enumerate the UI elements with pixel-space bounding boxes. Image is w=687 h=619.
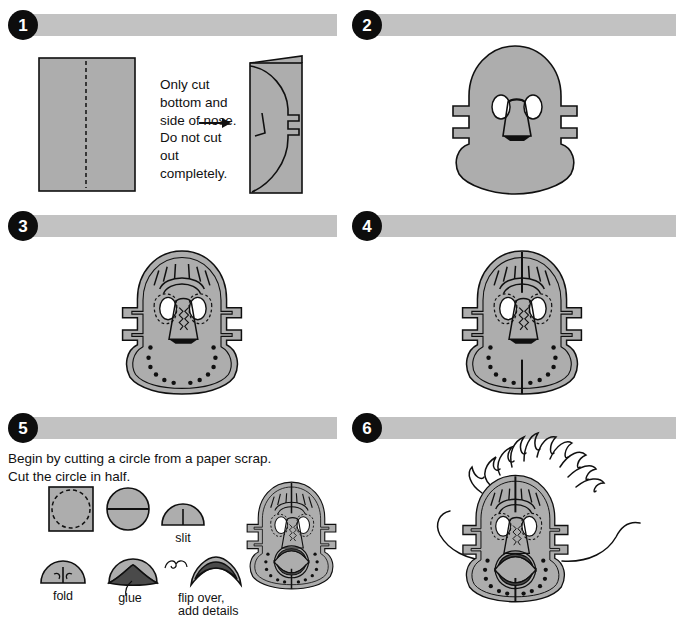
arrow-right-icon xyxy=(198,116,232,130)
border-dot xyxy=(148,345,152,349)
step-1-badge-label: 1 xyxy=(18,17,27,34)
paper-rectangle xyxy=(39,58,135,191)
flipped-mouth-shape xyxy=(191,557,241,585)
border-dot xyxy=(266,553,269,556)
step-5-label-slit: slit xyxy=(160,531,206,546)
step-4-panel: 4 xyxy=(344,205,687,405)
border-dot xyxy=(197,378,201,382)
border-dot xyxy=(511,381,515,385)
border-dot xyxy=(528,381,532,385)
border-dot xyxy=(551,365,555,369)
border-dot xyxy=(488,365,492,369)
step-5-badge-label: 5 xyxy=(18,420,27,437)
step-4-badge-label: 4 xyxy=(362,218,371,235)
border-dot xyxy=(494,372,498,376)
step-3-badge-label: 3 xyxy=(18,218,27,235)
hair-strand xyxy=(568,466,596,480)
border-dot xyxy=(538,584,542,588)
border-dot xyxy=(505,591,509,595)
forehead-ray-4 xyxy=(296,493,297,503)
forehead-ray-4 xyxy=(189,264,190,279)
border-dot xyxy=(146,356,150,360)
step-4-figure-mask-with-slits xyxy=(457,245,587,400)
step-4-header-bar xyxy=(356,215,676,237)
step-3-badge: 3 xyxy=(8,211,38,241)
hair-strand xyxy=(576,479,604,492)
border-dot xyxy=(148,365,152,369)
right-whisker xyxy=(562,523,640,562)
curl-arrow xyxy=(165,561,187,568)
border-dot xyxy=(211,365,215,369)
step-2-badge: 2 xyxy=(352,10,382,40)
border-dot xyxy=(537,378,541,382)
step-2-panel: 2 xyxy=(344,0,687,205)
border-dot xyxy=(311,574,314,577)
border-dot xyxy=(283,580,286,583)
step-5-figure-half-circle-fold xyxy=(38,557,88,587)
border-dot xyxy=(541,559,545,563)
border-dot xyxy=(521,591,525,595)
border-dot xyxy=(486,356,490,360)
border-dot xyxy=(530,589,534,593)
step-4-badge: 4 xyxy=(352,211,382,241)
step-5-figure-half-circle-flipped xyxy=(188,555,244,589)
forehead-ray-3 xyxy=(515,266,516,279)
border-dot xyxy=(211,345,215,349)
forehead-ray-3 xyxy=(175,264,176,279)
forehead-ray-3 xyxy=(509,489,510,500)
hair-strand xyxy=(469,467,484,493)
step-3-figure-decorated-mask xyxy=(117,245,247,400)
forehead-ray-4 xyxy=(529,266,530,279)
border-dot xyxy=(171,381,175,385)
border-dot xyxy=(315,568,318,571)
step-6-panel: 6 xyxy=(344,405,687,614)
step-5-figure-half-circle-slit xyxy=(160,500,206,528)
border-dot xyxy=(276,578,279,581)
border-dot xyxy=(315,560,318,563)
border-dot xyxy=(162,378,166,382)
border-dot xyxy=(497,589,501,593)
step-1-header-bar xyxy=(12,14,337,36)
step-1-figure-folded-paper xyxy=(38,57,136,192)
border-dot xyxy=(297,580,300,583)
step-6-figure-finished-mask xyxy=(354,427,674,614)
step-5-figure-half-circle-glue xyxy=(105,555,161,589)
step-5-badge: 5 xyxy=(8,413,38,443)
step-5-panel: 5 Begin by cutting a circle from a paper… xyxy=(0,405,344,614)
step-2-badge-label: 2 xyxy=(362,17,371,34)
hair-strand xyxy=(560,452,586,468)
step-1-figure-folded-half-with-outline xyxy=(243,55,309,195)
border-dot xyxy=(264,560,267,563)
border-dot xyxy=(485,559,489,563)
forehead-ray-4 xyxy=(521,489,522,500)
step-2-figure-mask-blank xyxy=(445,44,585,196)
border-dot xyxy=(488,345,492,349)
step-5-label-glue: glue xyxy=(100,591,160,606)
border-dot xyxy=(265,568,268,571)
mask-body-outline xyxy=(453,46,577,194)
border-dot xyxy=(313,553,316,556)
step-3-panel: 3 xyxy=(0,205,344,405)
border-dot xyxy=(484,577,488,581)
border-dot xyxy=(483,568,487,572)
step-1-badge: 1 xyxy=(8,10,38,40)
border-dot xyxy=(544,568,548,572)
border-dot xyxy=(188,381,192,385)
step-5-figure-circle-halved xyxy=(105,486,151,532)
border-dot xyxy=(551,345,555,349)
border-dot xyxy=(489,584,493,588)
paper-scrap xyxy=(49,487,93,531)
step-1-panel: 1 Only cut bottom and side of nose. Do n… xyxy=(0,0,344,205)
mask-body-outline xyxy=(123,251,242,394)
border-dot xyxy=(154,372,158,376)
mask-group xyxy=(463,475,568,601)
step-3-header-bar xyxy=(12,215,337,237)
border-dot xyxy=(502,378,506,382)
forehead-ray-3 xyxy=(286,493,287,503)
step-5-figure-paper-scrap-circle xyxy=(48,486,94,532)
step-5-label-fold: fold xyxy=(38,589,88,604)
step-2-header-bar xyxy=(356,14,676,36)
border-dot xyxy=(546,372,550,376)
border-dot xyxy=(269,574,272,577)
border-dot xyxy=(553,356,557,360)
